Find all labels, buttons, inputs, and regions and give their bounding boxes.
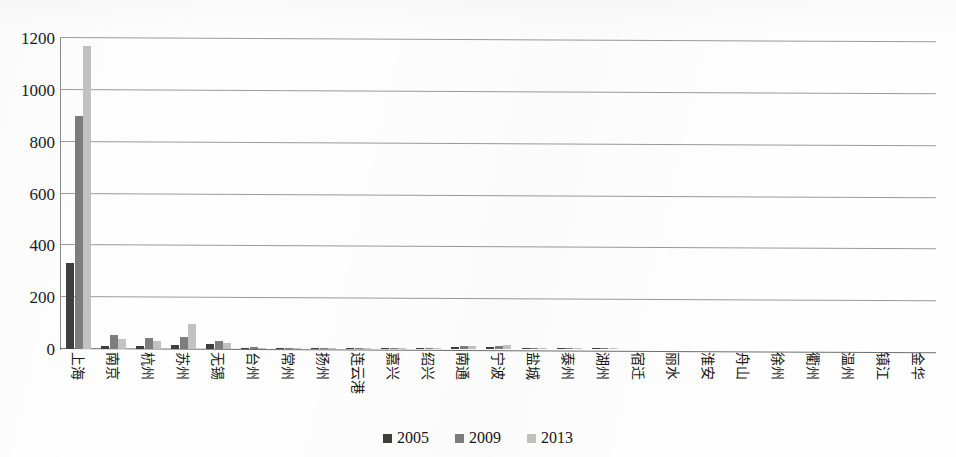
x-label-23: 镇江 [874,352,890,418]
bar-group [831,38,866,349]
bar-group [95,38,130,349]
bar-group [480,38,515,349]
bar-2009 [285,348,293,349]
x-label-3: 苏州 [174,352,190,418]
bar-2009 [75,116,83,349]
bar-group [270,38,305,349]
bar-group [235,38,270,349]
x-label-21: 衢州 [804,352,820,418]
y-axis-tick-labels: 020040060080010001200 [0,38,55,350]
x-label-14: 泰州 [559,352,575,418]
bar-2009 [110,335,118,349]
x-label-1: 南京 [104,352,120,418]
legend-swatch-icon [455,434,464,443]
x-label-12: 宁波 [489,352,505,418]
y-tick-label: 600 [0,186,55,203]
x-axis-category-labels: 上海南京杭州苏州无锡台州常州扬州连云港嘉兴绍兴南通宁波盐城泰州湖州宿迁丽水淮安舟… [60,352,936,422]
x-label-16: 宿迁 [629,352,645,418]
bar-2005 [311,348,319,349]
x-label-10: 绍兴 [419,352,435,418]
x-label-4: 无锡 [209,352,225,418]
bar-2013 [609,348,617,349]
y-tick-label: 1000 [0,82,55,99]
bar-2009 [215,341,223,349]
y-tick-label: 400 [0,237,55,254]
bar-2009 [390,348,398,349]
bar-2009 [355,348,363,349]
bar-2005 [171,345,179,349]
bar-group [200,38,235,349]
bar-2005 [416,348,424,349]
bar-group [901,38,936,349]
bar-2005 [486,347,494,349]
bar-group [796,38,831,349]
bar-2005 [522,348,530,349]
bar-2013 [433,348,441,349]
y-tick-label: 1200 [0,30,55,47]
x-label-22: 温州 [839,352,855,418]
x-label-15: 湖州 [594,352,610,418]
bar-group [305,38,340,349]
chart-legend: 200520092013 [0,430,956,446]
bar-2009 [145,338,153,349]
bar-2009 [565,348,573,349]
bar-2005 [101,346,109,349]
bar-2009 [600,348,608,349]
bar-2013 [574,348,582,349]
bar-group [726,38,761,349]
bar-group [516,38,551,349]
bar-2009 [495,346,503,349]
bar-chart-figure: 020040060080010001200 上海南京杭州苏州无锡台州常州扬州连云… [0,0,956,457]
x-label-18: 淮安 [699,352,715,418]
bar-2005 [451,347,459,349]
bar-2013 [258,348,266,349]
x-label-19: 舟山 [734,352,750,418]
bar-2005 [557,348,565,349]
x-label-6: 常州 [279,352,295,418]
bar-group [656,38,691,349]
legend-label: 2013 [541,430,573,446]
bar-2005 [66,263,74,349]
x-label-24: 金华 [909,352,925,418]
bar-2013 [328,348,336,349]
bar-2013 [539,348,547,349]
bar-2013 [118,339,126,349]
y-tick-label: 800 [0,134,55,151]
x-label-9: 嘉兴 [384,352,400,418]
x-label-0: 上海 [69,352,85,418]
legend-swatch-icon [383,434,392,443]
legend-item-2013[interactable]: 2013 [527,430,573,446]
bar-group [410,38,445,349]
bar-group [691,38,726,349]
bar-2005 [346,348,354,349]
bar-2013 [188,324,196,349]
bar-group [60,38,95,349]
bar-2013 [398,348,406,349]
x-label-2: 杭州 [139,352,155,418]
bar-group [130,38,165,349]
x-label-17: 丽水 [664,352,680,418]
x-label-7: 扬州 [314,352,330,418]
x-label-8: 连云港 [349,352,365,418]
bar-2009 [530,348,538,349]
bar-group [551,38,586,349]
bar-2013 [153,341,161,349]
bar-group [340,38,375,349]
bar-group [375,38,410,349]
bar-2009 [425,348,433,349]
bar-group [761,38,796,349]
x-label-5: 台州 [244,352,260,418]
bar-2005 [381,348,389,349]
legend-item-2009[interactable]: 2009 [455,430,501,446]
bar-2013 [293,348,301,349]
bar-2013 [468,346,476,349]
bar-2013 [363,348,371,349]
legend-item-2005[interactable]: 2005 [383,430,429,446]
x-label-20: 徐州 [769,352,785,418]
legend-label: 2005 [397,430,429,446]
bar-group [866,38,901,349]
bar-group [445,38,480,349]
legend-swatch-icon [527,434,536,443]
bar-group [165,38,200,349]
bar-2005 [206,344,214,349]
